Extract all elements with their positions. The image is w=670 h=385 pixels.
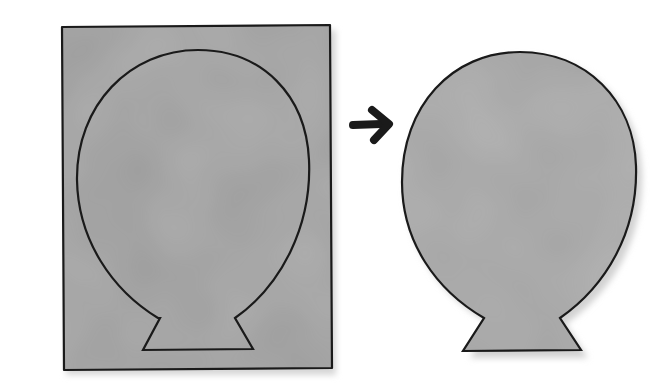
cut-out-balloon [402, 52, 642, 358]
diagram-canvas [0, 0, 670, 385]
arrow-right-icon [353, 110, 389, 140]
sheet-with-balloon-outline [62, 25, 336, 375]
balloon-shape [402, 52, 636, 351]
